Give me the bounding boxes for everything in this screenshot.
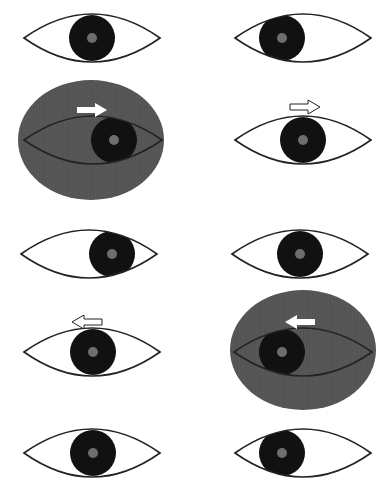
- pupil: [87, 33, 97, 43]
- eye-movement-diagram: [0, 0, 390, 494]
- eye-r4-left: [24, 328, 160, 376]
- eye-r5-right: [235, 429, 371, 477]
- pupil: [277, 33, 287, 43]
- pupil: [88, 448, 98, 458]
- arrow-left-icon: [72, 315, 102, 329]
- eye-r3-right: [232, 230, 368, 278]
- eye-r3-left: [21, 230, 157, 278]
- arrow-right-icon: [290, 100, 320, 114]
- eye-r2-right: [235, 116, 371, 164]
- pupil: [295, 249, 305, 259]
- pupil: [109, 135, 119, 145]
- eye-r1-left: [24, 14, 160, 62]
- eye-r5-left: [24, 429, 160, 477]
- eye-r1-right: [235, 14, 371, 62]
- pupil: [107, 249, 117, 259]
- pupil: [298, 135, 308, 145]
- pupil: [277, 347, 287, 357]
- pupil: [88, 347, 98, 357]
- pupil: [277, 448, 287, 458]
